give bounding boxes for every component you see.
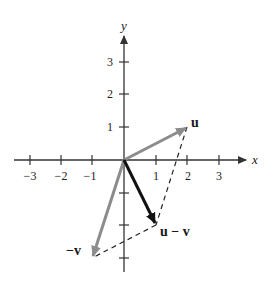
x-axis-label: x [251, 152, 258, 167]
y-tick-label: 1 [107, 120, 113, 134]
y-axis-label: y [119, 18, 127, 33]
vector-u-minus-v-label: u − v [160, 224, 190, 239]
x-tick-label: −3 [24, 169, 37, 183]
vector-u-minus-v [124, 160, 155, 223]
x-tick-label: 2 [185, 169, 191, 183]
vector-u [124, 128, 186, 160]
y-tick-label: 2 [107, 87, 113, 101]
vector-neg-v [93, 160, 124, 256]
y-tick-label: 3 [107, 55, 113, 69]
vector-u-label: u [191, 115, 199, 130]
x-tick-label: 1 [153, 169, 159, 183]
vector-diagram: −3 −2 −1 1 2 3 1 2 3 x y u u − v −v [0, 0, 273, 282]
vector-neg-v-label: −v [66, 243, 81, 258]
x-tick-label: −1 [84, 169, 97, 183]
x-tick-label: 3 [216, 169, 222, 183]
x-tick-label: −2 [55, 169, 68, 183]
